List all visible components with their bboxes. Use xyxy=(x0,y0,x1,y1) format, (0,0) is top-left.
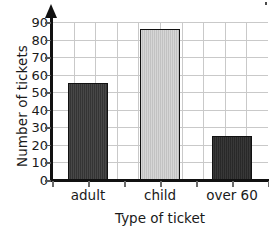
x-axis-tick-mark xyxy=(52,181,54,187)
y-axis-tick-label: 70 xyxy=(18,51,48,64)
x-axis-category-label: child xyxy=(124,187,196,203)
y-axis-tick-label: 10 xyxy=(18,156,48,169)
vertical-gridline xyxy=(138,22,139,180)
y-axis-tick-mark xyxy=(45,40,51,42)
y-axis-tick-mark xyxy=(45,162,51,164)
y-axis-tick-mark xyxy=(45,75,51,77)
y-axis-tick-label: 90 xyxy=(18,16,48,29)
x-axis-tick-mark xyxy=(268,181,269,187)
y-axis-tick-label: 30 xyxy=(18,121,48,134)
y-axis-tick-mark xyxy=(45,180,51,182)
x-axis-tick-mark xyxy=(88,181,90,187)
bar-adult xyxy=(68,83,107,180)
bar-over-60 xyxy=(212,136,251,180)
x-axis-category-label: over 60 xyxy=(196,187,268,203)
y-axis-tick-label: 0 xyxy=(18,174,48,187)
y-axis-tick-label: 40 xyxy=(18,103,48,116)
x-axis-tick-mark xyxy=(160,181,162,187)
corner-mark xyxy=(265,2,267,5)
y-axis-tick-label: 20 xyxy=(18,138,48,151)
y-axis-tick-mark xyxy=(45,110,51,112)
vertical-gridline xyxy=(203,22,204,180)
vertical-gridline xyxy=(182,22,183,180)
x-axis-tick-mark xyxy=(196,181,198,187)
y-axis-tick-label: 60 xyxy=(18,68,48,81)
y-axis-tick-mark xyxy=(45,127,51,129)
y-axis-tick-mark xyxy=(45,145,51,147)
y-axis-tick-mark xyxy=(45,92,51,94)
y-axis-tick-labels: 0102030405060708090 xyxy=(18,0,48,235)
x-axis-tick-mark xyxy=(124,181,126,187)
plot-area xyxy=(52,22,268,180)
x-axis-title: Type of ticket xyxy=(52,210,268,226)
y-axis-tick-mark xyxy=(45,57,51,59)
y-axis-arrow-icon xyxy=(45,4,57,18)
y-axis-tick-label: 50 xyxy=(18,86,48,99)
x-axis-tick-mark xyxy=(232,181,234,187)
x-axis-category-label: adult xyxy=(52,187,124,203)
bar-chart: Number of tickets 0102030405060708090 Ty… xyxy=(0,0,269,235)
y-axis-tick-label: 80 xyxy=(18,33,48,46)
y-axis-tick-mark xyxy=(45,22,51,24)
vertical-gridline xyxy=(117,22,118,180)
bar-child xyxy=(140,29,179,180)
